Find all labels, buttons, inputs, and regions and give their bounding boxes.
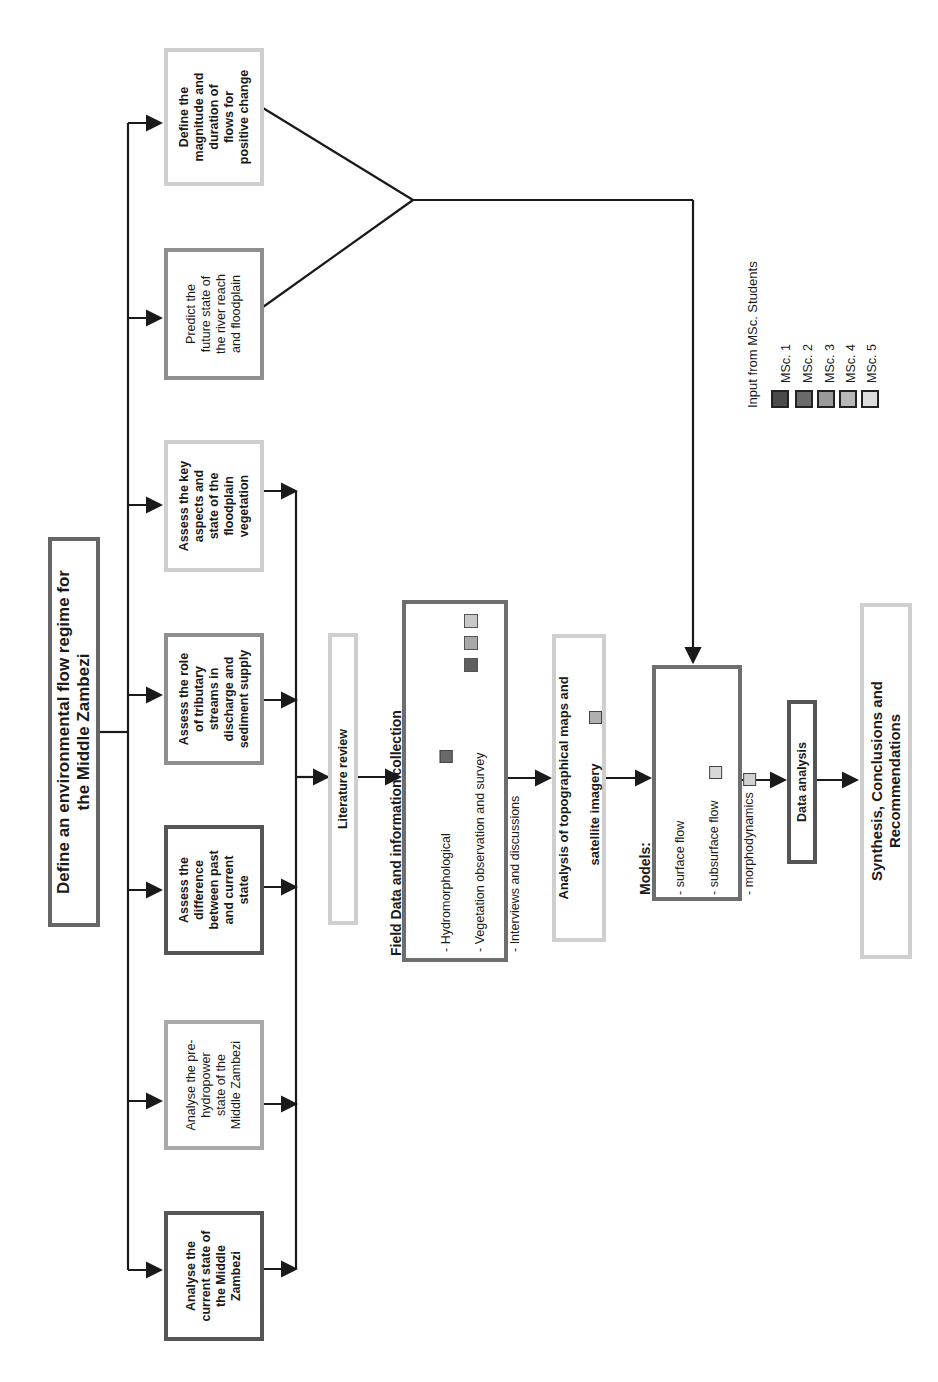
field-data-item: - Hydromorphological [424,606,454,952]
literature-review-box: Literature review [328,633,358,925]
legend-label-msc1: MSc. 1 [779,344,793,383]
msc4-marker [589,711,602,724]
objective-label: Define the magnitude and duration of flo… [177,51,252,183]
topo-analysis-box: Analysis of topographical maps and satel… [552,634,606,942]
objective-label: Predict the future state of the river re… [184,251,244,377]
topo-analysis-label: Analysis of topographical maps and satel… [540,638,618,938]
msc5-marker [709,766,722,779]
synthesis-label: Synthesis, Conclusions and Recommendatio… [868,606,904,956]
objective-label: Analyse the pre- hydropower state of the… [184,1023,244,1147]
models-item: - morphodynamics [742,792,756,895]
objective-label: Assess the role of tributary streams in … [177,636,252,762]
field-data-content: Field Data and information collection - … [369,606,542,956]
synthesis-box: Synthesis, Conclusions and Recommendatio… [860,603,912,959]
objective-tributaries: Assess the role of tributary streams in … [164,633,264,765]
legend-swatch-msc4 [839,390,857,408]
models-item: - surface flow [673,671,688,895]
legend-label-msc5: MSc. 5 [865,344,879,383]
models-content: Models: - surface flow - subsurface flow… [618,671,776,895]
objective-label: Assess the difference between past and c… [177,828,252,952]
models-item: - subsurface flow [707,801,721,895]
objective-difference: Assess the difference between past and c… [164,825,264,955]
objective-label: Analyse the current state of the Middle … [184,1214,244,1338]
msc1-marker [464,658,478,672]
data-analysis-box: Data analysis [787,700,817,864]
goal-title: Define an environmental flow regime for … [54,541,95,923]
objective-define-flows: Define the magnitude and duration of flo… [164,48,264,186]
legend-label-msc3: MSc. 3 [823,344,837,383]
legend-swatch-msc2 [795,390,813,408]
legend-label-msc2: MSc. 2 [801,344,815,383]
models-heading: Models: [637,671,654,895]
msc5-marker [464,614,478,628]
literature-review-label: Literature review [336,636,351,922]
legend-swatch-msc3 [817,390,835,408]
legend-label-msc4: MSc. 4 [844,344,858,383]
data-analysis-label: Data analysis [795,703,810,861]
field-data-heading: Field Data and information collection [388,606,405,956]
msc3-marker [464,636,478,650]
goal-title-box: Define an environmental flow regime for … [48,537,100,927]
objective-pre-hydropower: Analyse the pre- hydropower state of the… [164,1020,264,1150]
objective-label: Assess the key aspects and state of the … [177,443,252,569]
msc2-marker [440,750,453,763]
objective-current-state: Analyse the current state of the Middle … [164,1211,264,1341]
objective-vegetation: Assess the key aspects and state of the … [164,440,264,572]
legend-swatch-msc1 [771,390,789,408]
legend-title: Input from MSc. Students [745,261,760,408]
msc4-marker [743,773,756,786]
field-data-box: Field Data and information collection - … [402,600,508,962]
models-box: Models: - surface flow - subsurface flow… [652,665,742,901]
field-data-item: - Interviews and discussions [507,606,522,952]
legend-swatch-msc5 [861,390,879,408]
objective-future-state: Predict the future state of the river re… [164,248,264,380]
msc-legend: Input from MSc. Students MSc. 1 MSc. 2 M… [745,240,875,410]
